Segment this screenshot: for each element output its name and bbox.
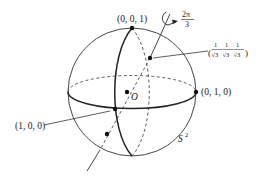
label-origin: O <box>131 92 138 102</box>
label-y-axis: (0, 1, 0) <box>201 87 231 98</box>
sphere-diagram: (0, 0, 1) (1, 0, 0) (0, 1, 0) O S 2 2π 3… <box>0 0 266 183</box>
angle-numerator: 2π <box>182 10 190 19</box>
leader-diagonal <box>153 51 208 58</box>
equator-back-dashed <box>68 76 196 92</box>
frac-num: 1 <box>236 41 239 48</box>
point-diagonal <box>148 56 152 60</box>
label-x-axis: (1, 0, 0) <box>15 121 45 132</box>
meridian-front-solid <box>115 28 132 156</box>
point-north <box>130 26 134 30</box>
rotation-axis-upper <box>150 14 170 58</box>
diag-frac-2: 1 √3 <box>223 41 234 58</box>
diag-frac-1: 1 √3 <box>212 41 223 58</box>
frac-den: √3 <box>212 51 219 58</box>
frac-den: √3 <box>234 51 241 58</box>
rotation-arrowhead-icon <box>172 20 178 25</box>
rotation-angle-label: 2π 3 <box>181 10 194 29</box>
frac-num: 1 <box>225 41 228 48</box>
point-antipode <box>105 132 109 136</box>
point-x-axis <box>113 107 117 111</box>
point-y-axis <box>194 90 198 94</box>
label-sphere-sup: 2 <box>185 131 188 138</box>
leader-x-axis <box>44 111 110 125</box>
frac-den: √3 <box>223 51 230 58</box>
diag-close-paren: ) <box>245 48 248 58</box>
angle-denominator: 3 <box>185 20 189 29</box>
label-diagonal: ( 1 √3 1 √3 1 √3 ) <box>208 41 248 58</box>
frac-num: 1 <box>214 41 217 48</box>
label-sphere: S <box>178 134 183 144</box>
point-origin <box>125 90 129 94</box>
diag-frac-3: 1 √3 <box>234 41 245 58</box>
label-north: (0, 0, 1) <box>117 14 147 25</box>
rotation-axis-lower <box>87 150 100 171</box>
